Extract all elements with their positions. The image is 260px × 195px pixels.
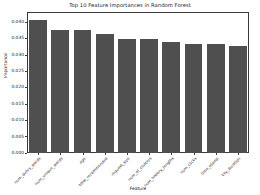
x-axis-label: Feature	[27, 186, 249, 191]
bar	[29, 20, 47, 153]
y-tick-label: 0.005	[11, 134, 24, 139]
bar-series	[27, 12, 249, 153]
x-tick-mark	[171, 153, 172, 155]
chart-title: Top 10 Feature Importances in Random For…	[0, 2, 260, 8]
x-tick-mark	[238, 153, 239, 155]
y-tick-label: 0.020	[11, 84, 24, 89]
y-tick-label: 0.010	[11, 117, 24, 122]
y-tick-label: 0.025	[11, 68, 24, 73]
y-tick-label: 0.000	[11, 150, 24, 155]
bar	[118, 39, 136, 154]
bar	[162, 42, 180, 153]
bar	[74, 30, 92, 153]
x-axis-ticks: num_query_wordsnum_unique_wordsagetotal_…	[27, 153, 249, 189]
chart-figure: Top 10 Feature Importances in Random For…	[0, 0, 260, 195]
bar	[140, 39, 158, 153]
bar	[207, 44, 225, 153]
bar	[51, 30, 69, 153]
x-tick-mark	[216, 153, 217, 155]
bar	[229, 46, 247, 153]
y-tick-label: 0.035	[11, 35, 24, 40]
bar	[185, 44, 203, 153]
bar	[96, 34, 114, 153]
y-tick-label: 0.040	[11, 19, 24, 24]
x-tick-mark	[38, 153, 39, 155]
y-tick-label: 0.030	[11, 52, 24, 57]
x-tick-mark	[127, 153, 128, 155]
x-tick-mark	[149, 153, 150, 155]
x-tick-mark	[105, 153, 106, 155]
y-tick-label: 0.015	[11, 101, 24, 106]
y-axis-ticks: 0.0000.0050.0100.0150.0200.0250.0300.035…	[0, 12, 27, 153]
x-tick-mark	[60, 153, 61, 155]
